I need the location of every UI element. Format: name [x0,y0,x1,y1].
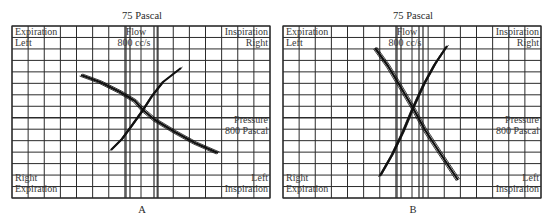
label-left-bottom: Left [251,172,268,183]
panel-b: ExpirationLeftFlow800 cc/sInspirationRig… [283,10,541,215]
label-flow: Flow [397,26,418,37]
panel-a: ExpirationLeftFlow800 cc/sInspirationRig… [12,10,270,215]
label-flow-scale: 800 cc/s [117,37,150,48]
panel-title: 75 Pascal [393,10,433,21]
label-pressure-scale: 800 Pascal [225,125,268,136]
panel-caption: A [138,204,146,215]
label-right-top: Right [246,37,268,48]
label-inspiration-bottom: Inspiration [496,183,539,194]
label-right-bottom: Right [15,172,37,183]
label-expiration-top: Expiration [286,26,328,37]
label-inspiration-top: Inspiration [496,26,539,37]
label-pressure: Pressure [234,114,268,125]
label-expiration-bottom: Expiration [15,183,57,194]
label-inspiration-bottom: Inspiration [225,183,268,194]
label-right-top: Right [517,37,539,48]
pressure-flow-loop [81,75,218,153]
panel-caption: B [409,204,416,215]
figure: ExpirationLeftFlow800 cc/sInspirationRig… [0,0,553,221]
pressure-flow-loop [375,48,458,180]
label-left-top: Left [15,37,32,48]
label-pressure: Pressure [505,114,539,125]
label-inspiration-top: Inspiration [225,26,268,37]
label-pressure-scale: 800 Pascal [496,125,539,136]
label-expiration-bottom: Expiration [286,183,328,194]
label-left-top: Left [286,37,303,48]
label-expiration-top: Expiration [15,26,57,37]
label-left-bottom: Left [522,172,539,183]
label-flow-scale: 800 cc/s [388,37,421,48]
label-right-bottom: Right [286,172,308,183]
label-flow: Flow [126,26,147,37]
panel-title: 75 Pascal [122,10,162,21]
pressure-flow-loop [111,68,181,150]
